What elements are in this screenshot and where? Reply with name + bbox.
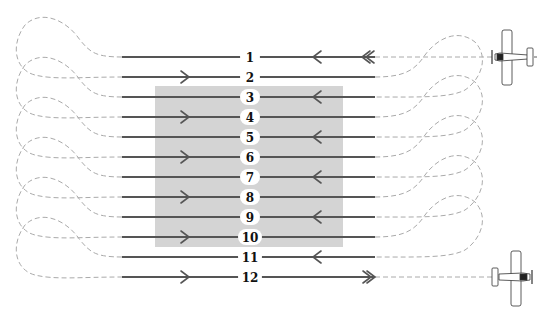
svg-text:4: 4 <box>246 111 254 125</box>
pass-label-3: 3 <box>240 89 260 105</box>
left-turn-3-4 <box>16 57 122 118</box>
pass-label-8: 8 <box>240 189 260 205</box>
pass-label-1: 1 <box>240 49 260 65</box>
svg-text:1: 1 <box>246 51 254 65</box>
pass-label-6: 6 <box>240 149 260 165</box>
left-turn-5-6 <box>16 97 122 158</box>
pass-label-2: 2 <box>240 69 260 85</box>
svg-text:10: 10 <box>242 231 259 245</box>
pass-label-12: 12 <box>238 269 262 285</box>
airplane-icon-entering <box>492 30 537 85</box>
right-turn-8-9 <box>375 156 482 217</box>
airplane-icon-exiting <box>492 251 532 306</box>
right-turn-2-3 <box>375 36 482 97</box>
left-turn-1-2 <box>16 17 122 78</box>
svg-text:7: 7 <box>246 171 254 185</box>
pass-label-11: 11 <box>238 249 262 265</box>
svg-text:12: 12 <box>242 271 259 285</box>
left-turn-9-10 <box>16 177 122 238</box>
left-turn-7-8 <box>16 137 122 198</box>
svg-text:9: 9 <box>246 211 254 225</box>
left-turn-11-12 <box>16 217 122 278</box>
svg-text:6: 6 <box>246 151 254 165</box>
right-turn-10-11 <box>375 196 482 257</box>
flight-pattern-diagram: 1 2 3 4 5 6 7 8 9 10 11 12 <box>0 0 549 321</box>
pass-label-5: 5 <box>240 129 260 145</box>
right-turn-6-7 <box>375 116 482 177</box>
pass-label-7: 7 <box>240 169 260 185</box>
svg-text:3: 3 <box>246 91 254 105</box>
pass-label-9: 9 <box>240 209 260 225</box>
pass-label-4: 4 <box>240 109 260 125</box>
right-turn-4-5 <box>375 76 482 137</box>
svg-text:8: 8 <box>246 191 254 205</box>
pass-label-10: 10 <box>238 229 262 245</box>
svg-text:5: 5 <box>246 131 254 145</box>
svg-text:11: 11 <box>242 251 259 265</box>
svg-text:2: 2 <box>246 71 254 85</box>
